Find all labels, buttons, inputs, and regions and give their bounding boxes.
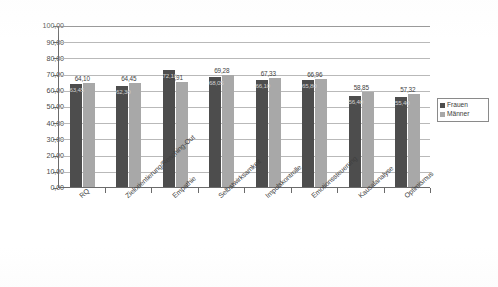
data-label-frauen: 63,45 (64, 87, 90, 93)
data-label-maenner: 66,96 (295, 72, 335, 78)
gridline (59, 156, 430, 157)
bar-chart: 0,0010,0020,0030,0040,0050,0060,0070,008… (0, 0, 498, 287)
bar-frauen (256, 80, 268, 187)
data-label-maenner: 69,28 (202, 68, 242, 74)
bar-maenner (315, 79, 327, 187)
legend-swatch-maenner (440, 112, 445, 117)
bar-frauen (395, 97, 407, 187)
bar-frauen (70, 84, 82, 187)
data-label-frauen: 66,10 (250, 83, 276, 89)
x-axis-tick-mark (244, 188, 245, 193)
data-label-maenner: 64,10 (62, 76, 102, 82)
bar-maenner (83, 83, 95, 187)
plot-area: 64,1063,4564,4562,3064,9172,1069,2868,05… (58, 26, 430, 188)
x-axis-category-label: RQ (78, 187, 90, 199)
gridline (59, 139, 430, 140)
data-label-maenner: 64,45 (109, 76, 149, 82)
bar-group (70, 26, 95, 187)
x-axis-tick-mark (384, 188, 385, 193)
x-axis-tick-mark (291, 188, 292, 193)
bar-maenner (362, 92, 374, 187)
gridline (59, 107, 430, 108)
bar-frauen (349, 96, 361, 187)
bar-maenner (129, 83, 141, 187)
bar-maenner (176, 82, 188, 187)
legend-label-maenner: Männer (447, 111, 469, 118)
legend-item-frauen: Frauen (440, 101, 486, 110)
legend-item-maenner: Männer (440, 110, 486, 119)
data-label-maenner: 58,85 (341, 85, 381, 91)
x-axis-tick-mark (198, 188, 199, 193)
data-label-maenner: 67,33 (248, 71, 288, 77)
data-label-frauen: 55,40 (389, 100, 415, 106)
legend-swatch-frauen (440, 103, 445, 108)
gridline (59, 58, 430, 59)
bar-group (209, 26, 234, 187)
data-label-frauen: 72,10 (157, 73, 183, 79)
bar-group (302, 26, 327, 187)
bar-maenner (408, 94, 420, 187)
gridline (59, 42, 430, 43)
x-axis-tick-mark (105, 188, 106, 193)
gridline (59, 123, 430, 124)
bar-frauen (209, 77, 221, 187)
bar-maenner (269, 78, 281, 187)
bar-maenner (222, 75, 234, 187)
bar-frauen (163, 70, 175, 187)
legend-label-frauen: Frauen (447, 102, 468, 109)
data-label-frauen: 62,30 (110, 89, 136, 95)
data-label-maenner: 57,32 (388, 87, 428, 93)
data-label-frauen: 65,80 (296, 83, 322, 89)
bar-frauen (116, 86, 128, 187)
chart-legend: Frauen Männer (437, 98, 489, 122)
x-axis-tick-mark (430, 188, 431, 193)
bar-group (395, 26, 420, 187)
x-axis-tick-mark (337, 188, 338, 193)
data-label-frauen: 68,05 (203, 80, 229, 86)
y-axis-tick-mark (53, 188, 58, 189)
x-axis-tick-mark (151, 188, 152, 193)
bar-frauen (302, 80, 314, 187)
gridline (59, 26, 430, 27)
data-label-frauen: 56,40 (343, 99, 369, 105)
bar-group (116, 26, 141, 187)
